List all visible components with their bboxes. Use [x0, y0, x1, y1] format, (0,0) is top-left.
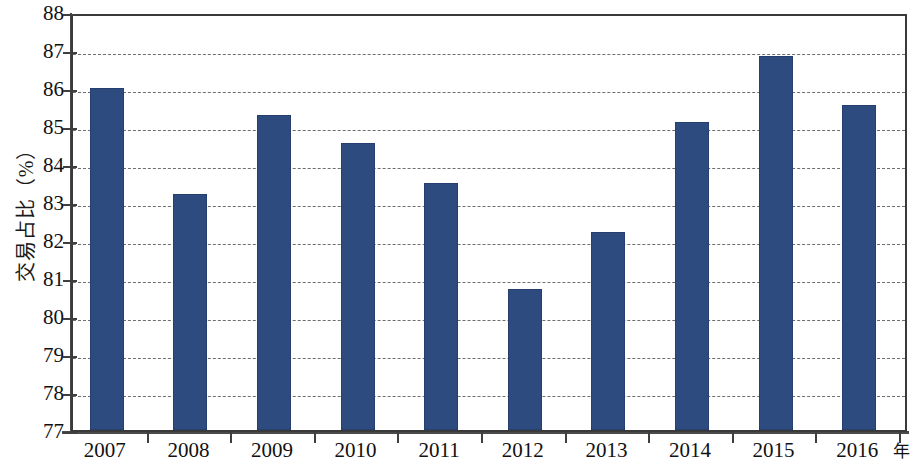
y-axis-tickmark	[63, 394, 77, 396]
y-axis-tick-label: 77	[22, 421, 64, 442]
x-axis-tick-label: 2013	[561, 440, 651, 461]
bar-2007	[90, 88, 124, 430]
y-axis-tick-label: 85	[22, 117, 64, 138]
y-axis-tickmark	[63, 356, 77, 358]
plot-area	[71, 14, 907, 432]
bar-2013	[591, 232, 625, 430]
x-axis-tick-label: 2008	[143, 440, 233, 461]
y-axis-tick-label: 81	[22, 269, 64, 290]
y-axis-tick-label: 88	[22, 3, 64, 24]
y-axis-tickmark	[63, 14, 77, 16]
bar-2011	[424, 183, 458, 430]
y-axis-tickmark	[63, 318, 77, 320]
y-axis-tickmark	[63, 52, 77, 54]
y-axis-tick-label: 87	[22, 41, 64, 62]
y-axis-tick-label: 78	[22, 383, 64, 404]
y-axis-tickmark	[63, 128, 77, 130]
x-axis-tick-label: 2016	[812, 440, 902, 461]
y-axis-tickmark	[63, 204, 77, 206]
bar-2009	[257, 115, 291, 430]
x-axis-tick-label: 2014	[645, 440, 735, 461]
y-axis-tick-label: 80	[22, 307, 64, 328]
x-axis-tick-label: 2012	[478, 440, 568, 461]
bar-2015	[759, 56, 793, 430]
x-axis-tick-label: 2009	[227, 440, 317, 461]
y-axis-tickmark	[63, 280, 77, 282]
y-axis-tick-label: 83	[22, 193, 64, 214]
y-axis-tick-label: 84	[22, 155, 64, 176]
x-axis-tick-label: 2011	[394, 440, 484, 461]
y-axis-tickmark	[63, 242, 77, 244]
x-axis-tick-label: 2007	[60, 440, 150, 461]
bar-2010	[341, 143, 375, 430]
x-axis-tick-label: 2015	[729, 440, 819, 461]
y-axis-tick-label: 79	[22, 345, 64, 366]
y-axis-tick-labels: 777879808182838485868788	[12, 0, 64, 468]
x-axis-tick-label: 2010	[311, 440, 401, 461]
y-axis-tick-label: 86	[22, 79, 64, 100]
y-axis-tickmark	[63, 90, 77, 92]
bar-2012	[508, 289, 542, 430]
bar-2014	[675, 122, 709, 430]
y-axis-tickmark	[63, 166, 77, 168]
bar-2008	[173, 194, 207, 430]
y-axis-tick-label: 82	[22, 231, 64, 252]
bar-2016	[842, 105, 876, 430]
bar-chart: 交易占比（%） 777879808182838485868788 年 20072…	[0, 0, 921, 468]
y-axis-tickmark	[63, 432, 77, 434]
